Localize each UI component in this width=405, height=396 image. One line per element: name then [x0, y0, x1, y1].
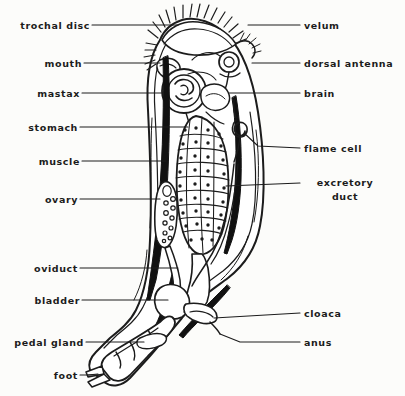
- label-foot: foot: [0, 369, 78, 382]
- label-dorsal-antenna: dorsal antenna: [304, 57, 393, 70]
- label-bladder: bladder: [0, 294, 80, 307]
- label-brain: brain: [304, 87, 335, 100]
- label-anus: anus: [304, 336, 332, 349]
- label-excretory-duct: excretory duct: [302, 176, 388, 204]
- rotifer-diagram: trochal disc mouth mastax stomach muscle…: [0, 0, 405, 396]
- bladder: [155, 285, 190, 320]
- label-velum: velum: [304, 19, 340, 32]
- label-muscle: muscle: [0, 155, 80, 168]
- leader-cloaca: [214, 313, 300, 318]
- label-ovary: ovary: [0, 193, 78, 206]
- dorsal-antenna-inner: [224, 57, 234, 67]
- label-flame-cell: flame cell: [304, 142, 362, 155]
- ovary-outline: [155, 182, 177, 248]
- velum-cilia: [240, 33, 261, 53]
- label-mastax: mastax: [0, 87, 80, 100]
- label-stomach: stomach: [0, 121, 78, 134]
- anus: [210, 322, 220, 334]
- leader-anus: [220, 334, 300, 342]
- label-oviduct: oviduct: [0, 262, 78, 275]
- label-trochal-disc: trochal disc: [0, 19, 90, 32]
- label-mouth: mouth: [0, 57, 82, 70]
- brain: [201, 84, 230, 110]
- label-cloaca: cloaca: [304, 307, 341, 320]
- label-pedal-gland: pedal gland: [0, 336, 84, 349]
